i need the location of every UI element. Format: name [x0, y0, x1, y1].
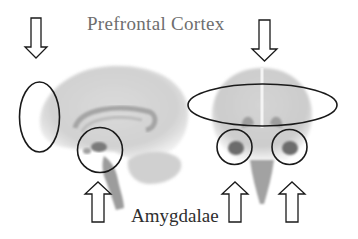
up-arrow-icon-coronal-left	[222, 182, 248, 222]
up-arrow-icon-coronal-right	[279, 182, 305, 222]
sagittal-brain	[40, 66, 188, 210]
diagram-canvas	[0, 0, 358, 239]
down-arrow-icon-left	[25, 18, 47, 58]
coronal-brain	[212, 68, 312, 204]
brain-diagram: Prefrontal Cortex Amygdalae	[0, 0, 358, 239]
down-arrow-icon-right	[252, 20, 277, 61]
prefrontal-cortex-label: Prefrontal Cortex	[87, 14, 225, 33]
amygdalae-label: Amygdalae	[131, 206, 219, 225]
up-arrow-icon-sagittal	[85, 182, 111, 222]
